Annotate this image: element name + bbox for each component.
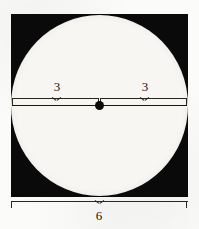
left-radius-label: 3	[47, 80, 67, 93]
square-side-rail-end-tick	[186, 201, 187, 208]
left-radius-rail-start-tick	[12, 98, 13, 105]
right-radius-rail-midpoint-chevron	[140, 97, 148, 102]
square-side-rail-midpoint-chevron	[95, 200, 103, 205]
left-radius-rail-midpoint-chevron	[52, 97, 60, 102]
right-radius-label: 3	[135, 80, 155, 93]
circle-center-dot	[95, 101, 104, 110]
square-side-label: 6	[89, 209, 109, 222]
geometry-figure: 3 3 6	[0, 0, 199, 229]
right-radius-rail-end-tick	[186, 98, 187, 105]
square-side-rail-start-tick	[11, 201, 12, 208]
